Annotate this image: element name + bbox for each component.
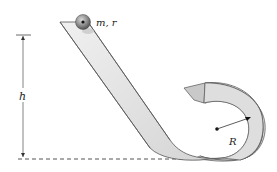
- height-dimension: h: [16, 35, 31, 157]
- ball-center-dot: [81, 20, 84, 23]
- radius-label: R: [228, 136, 237, 147]
- height-label: h: [19, 90, 26, 103]
- loop-the-loop-diagram: h m, r R: [0, 0, 277, 172]
- ball-label: m, r: [96, 17, 118, 28]
- loop-track: [184, 83, 265, 162]
- arrow-up-icon: [21, 36, 25, 40]
- arrow-down-icon: [21, 153, 25, 157]
